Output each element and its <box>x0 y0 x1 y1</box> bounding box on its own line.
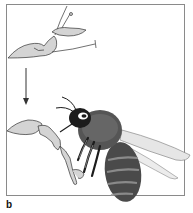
flower-open-icon <box>7 120 84 185</box>
bee-icon <box>56 97 190 204</box>
illustration-figure: b <box>0 0 193 213</box>
arrow-down-icon <box>23 68 29 105</box>
illustration-canvas <box>0 0 193 213</box>
panel-label: b <box>6 199 12 211</box>
flower-closed-icon <box>8 6 96 58</box>
